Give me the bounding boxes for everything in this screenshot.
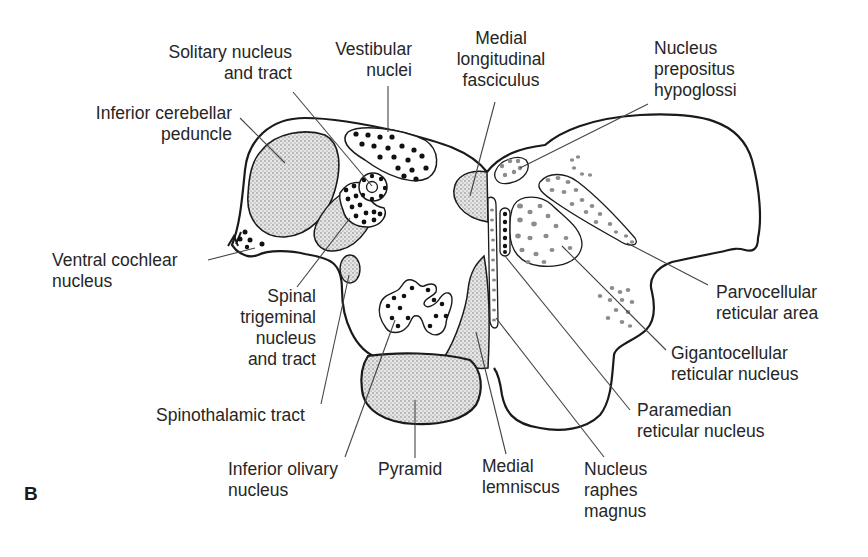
panel-label: B: [24, 483, 38, 505]
label-medial-lemniscus: Medial lemniscus: [482, 456, 578, 498]
label-pyramid: Pyramid: [378, 459, 458, 480]
label-ventral-cochlear-nucleus: Ventral cochlear nucleus: [52, 250, 212, 292]
label-medial-longitudinal-fasciculus: Medial longitudinal fasciculus: [446, 28, 556, 91]
leader-ventral-cochlear: [208, 248, 255, 260]
label-parvocellular-reticular-area: Parvocellular reticular area: [716, 282, 866, 324]
label-solitary-nucleus: Solitary nucleus and tract: [140, 42, 292, 84]
leader-raphe: [496, 318, 604, 457]
inferior-olivary-nucleus-shape: [379, 280, 452, 335]
label-nucleus-prepositus-hypoglossi: Nucleus prepositus hypoglossi: [654, 38, 764, 101]
label-inferior-cerebellar-peduncle: Inferior cerebellar peduncle: [60, 103, 232, 145]
mlf-shape: [454, 171, 488, 222]
leader-paramedian: [505, 256, 630, 410]
label-spinal-trigeminal-nucleus-and-tract: Spinal trigeminal nucleus and tract: [218, 286, 316, 370]
spinothalamic-tract-shape: [340, 255, 360, 283]
scattered-reticular-dots-upper: [570, 155, 592, 177]
medial-lemniscus-shape: [445, 256, 489, 368]
label-inferior-olivary-nucleus: Inferior olivary nucleus: [228, 459, 368, 501]
leader-prepositus: [520, 104, 648, 168]
leader-gigantocellular: [562, 246, 666, 350]
label-nucleus-raphes-magnus: Nucleus raphes magnus: [584, 459, 664, 522]
label-paramedian-reticular-nucleus: Paramedian reticular nucleus: [637, 400, 797, 442]
scattered-reticular-dots-lateral: [598, 286, 635, 328]
leader-spinothalamic: [321, 275, 349, 404]
solitary-tract-shape: [367, 182, 378, 193]
label-spinothalamic-tract: Spinothalamic tract: [156, 405, 336, 426]
raphe-column-shape: [488, 197, 498, 328]
leader-parvocellular: [627, 243, 708, 285]
label-gigantocellular-reticular-nucleus: Gigantocellular reticular nucleus: [671, 343, 831, 385]
label-vestibular-nuclei: Vestibular nuclei: [318, 39, 412, 81]
